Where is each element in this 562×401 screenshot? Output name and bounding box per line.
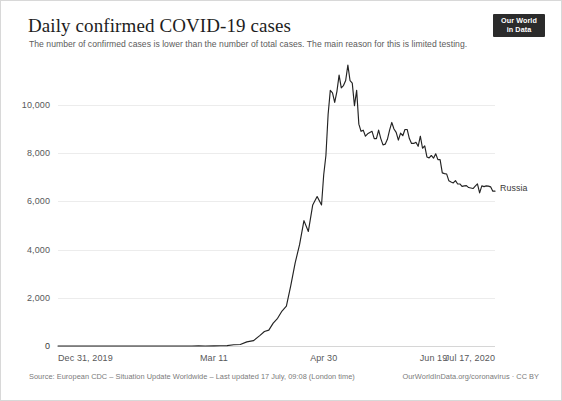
chart-subtitle: The number of confirmed cases is lower t… (29, 39, 467, 50)
source-note: Source: European CDC – Situation Update … (29, 372, 355, 381)
x-tick-label-0: Dec 31, 2019 (58, 353, 113, 363)
series-label-russia: Russia (500, 183, 528, 193)
x-tick-label-1: Mar 11 (200, 353, 228, 363)
y-tick-label-2000: 2,000 (27, 293, 50, 303)
chart-title: Daily confirmed COVID-19 cases (28, 15, 291, 37)
y-tick-label-10000: 10,000 (22, 100, 50, 110)
x-tick-label-4: Jul 17, 2020 (445, 353, 495, 363)
y-tick-label-0: 0 (45, 341, 50, 351)
chart-footer: Source: European CDC – Situation Update … (1, 372, 562, 386)
plot-area: 02,0004,0006,0008,00010,000 Dec 31, 2019… (58, 53, 495, 346)
license-note[interactable]: OurWorldInData.org/coronavirus · CC BY (402, 372, 539, 381)
chart-card: Daily confirmed COVID-19 cases The numbe… (0, 0, 562, 401)
y-tick-label-8000: 8,000 (27, 148, 50, 158)
x-tick-label-3: Jun 19 (420, 353, 448, 363)
y-tick-label-4000: 4,000 (27, 245, 50, 255)
our-world-in-data-logo[interactable]: Our World in Data (493, 14, 545, 37)
series-line-russia (58, 65, 495, 346)
series-plot (58, 53, 495, 346)
x-tick-label-2: Apr 30 (310, 353, 337, 363)
y-tick-label-6000: 6,000 (27, 196, 50, 206)
logo-line-2: in Data (507, 26, 532, 35)
